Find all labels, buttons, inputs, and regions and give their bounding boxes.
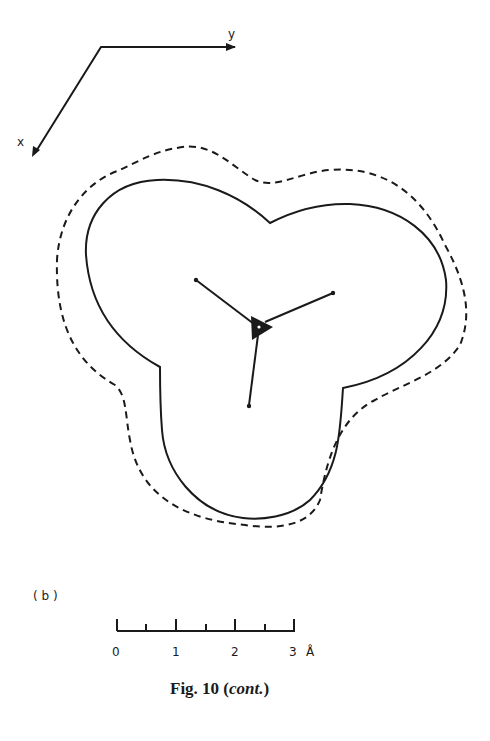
scale-tick-label: 1	[172, 645, 180, 659]
bond-line	[265, 293, 333, 322]
bond-line	[196, 280, 254, 324]
figure-canvas: y x ( b ) 0 1 2 3 Å Fig. 10 (cont.)	[0, 0, 490, 741]
scale-bar: 0 1 2 3 Å	[112, 619, 315, 659]
outer-dashed-contour	[57, 146, 466, 526]
y-axis-label: y	[228, 27, 235, 41]
axes-lines	[35, 47, 235, 153]
scale-tick-label: 2	[231, 645, 239, 659]
y-arrow-icon	[226, 43, 236, 51]
scale-unit-label: Å	[306, 644, 315, 659]
atom-dot	[247, 404, 251, 408]
panel-label: ( b )	[33, 589, 58, 603]
axes-indicator: y x	[17, 27, 236, 157]
inner-solid-contour	[86, 180, 446, 519]
atom-dot	[194, 278, 198, 282]
figure-caption: Fig. 10 (cont.)	[170, 679, 269, 698]
x-axis-label: x	[17, 135, 24, 149]
bond-line	[249, 335, 258, 405]
scale-tick-label: 3	[289, 645, 297, 659]
atom-dot	[331, 291, 335, 295]
central-atom-center	[257, 325, 260, 328]
molecule-skeleton	[194, 278, 335, 408]
scale-tick-label: 0	[112, 645, 120, 659]
